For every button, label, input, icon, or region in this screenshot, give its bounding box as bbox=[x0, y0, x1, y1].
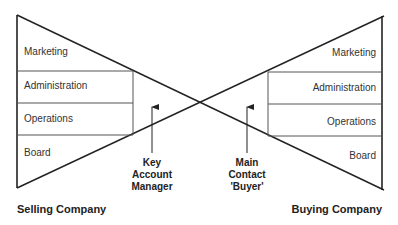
selling-company-triangle bbox=[17, 15, 384, 190]
buying-company-triangle bbox=[268, 16, 382, 190]
caption-line: 'Buyer' bbox=[217, 181, 277, 193]
buying-layer-marketing: Marketing bbox=[332, 47, 376, 58]
caption-line: Account bbox=[122, 169, 182, 181]
caption-line: Contact bbox=[217, 169, 277, 181]
selling-layer-board: Board bbox=[24, 147, 51, 158]
caption-line: Manager bbox=[122, 181, 182, 193]
buying-layer-board: Board bbox=[349, 150, 376, 161]
buying-layer-administration: Administration bbox=[313, 82, 376, 93]
main-contact-buyer-caption: Main Contact 'Buyer' bbox=[217, 157, 277, 193]
caption-line: Key bbox=[122, 157, 182, 169]
buying-company-title: Buying Company bbox=[292, 203, 382, 215]
caption-line: Main bbox=[217, 157, 277, 169]
selling-layer-marketing: Marketing bbox=[24, 46, 68, 57]
buying-layer-operations: Operations bbox=[327, 116, 376, 127]
selling-layer-administration: Administration bbox=[24, 80, 87, 91]
selling-layer-operations: Operations bbox=[24, 113, 73, 124]
selling-company-title: Selling Company bbox=[17, 203, 106, 215]
key-account-manager-caption: Key Account Manager bbox=[122, 157, 182, 193]
